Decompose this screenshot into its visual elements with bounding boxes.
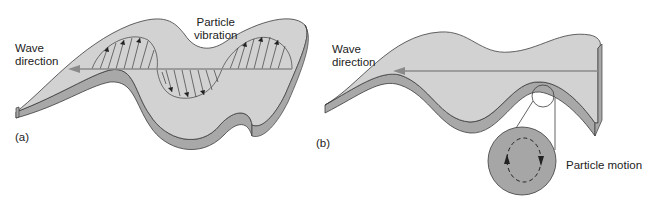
particle-motion-label: Particle motion bbox=[566, 159, 642, 172]
panel-a-slab bbox=[16, 19, 308, 150]
particle-motion-inset bbox=[488, 127, 556, 195]
wave-direction-label-b: Wave direction bbox=[332, 43, 375, 69]
particle-vibration-label: Particle vibration bbox=[194, 16, 237, 42]
wave-diagram bbox=[0, 0, 649, 205]
wave-direction-label-a: Wave direction bbox=[15, 42, 58, 68]
panel-b-label: (b) bbox=[316, 137, 330, 150]
panel-a-label: (a) bbox=[15, 131, 29, 144]
